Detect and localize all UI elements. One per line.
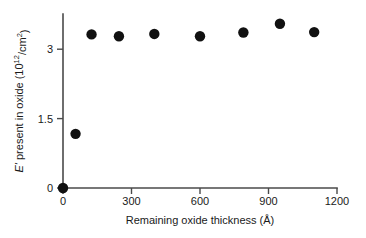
x-tick-label-1: 300 [122,195,140,207]
y-tick-label-2: 3 [47,43,53,55]
x-tick-label-0: 0 [60,195,66,207]
scatter-plot: 0 1.5 3 0 300 600 900 1200 Remaining oxi… [0,0,366,238]
data-point [275,19,285,29]
x-axis-ticks [63,188,337,194]
y-axis-title-tail: /cm [16,37,28,55]
y-tick-label-0: 0 [47,182,53,194]
data-point [309,27,319,37]
y-tick-label-1: 1.5 [38,113,53,125]
x-tick-label-2: 600 [191,195,209,207]
data-point [86,29,96,39]
data-point [149,29,159,39]
data-point [114,31,124,41]
x-axis-title: Remaining oxide thickness (Å) [126,214,275,226]
x-tick-label-3: 900 [259,195,277,207]
y-axis-title: E' present in oxide (1012/cm2) [12,29,31,172]
data-point [58,183,68,193]
data-points-layer [58,19,320,194]
x-tick-label-4: 1200 [325,195,349,207]
y-axis-title-exponent: 12 [12,55,21,63]
y-axis-ticks [57,49,63,188]
y-axis-title-text: present in oxide (10 [13,63,25,163]
data-point [195,31,205,41]
data-point [70,129,80,139]
data-point [238,27,248,37]
y-axis-title-close: ) [18,29,30,33]
chart-figure: 0 1.5 3 0 300 600 900 1200 Remaining oxi… [0,0,366,238]
